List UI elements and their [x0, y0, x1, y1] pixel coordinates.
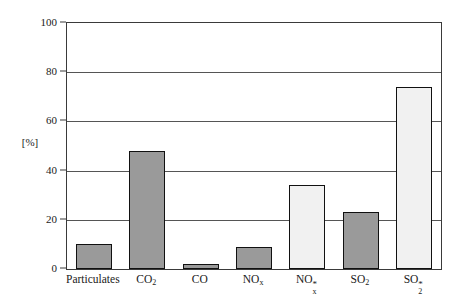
bar-slot	[281, 23, 334, 269]
y-axis-tick-labels: 020406080100	[28, 0, 62, 301]
bar-slot	[120, 23, 173, 269]
x-axis-tick-label: CO	[173, 272, 226, 290]
bar-slot	[227, 23, 280, 269]
plot-area	[66, 22, 442, 270]
y-axis-tick-mark	[60, 169, 66, 170]
y-axis-tick-label: 60	[28, 115, 62, 126]
x-axis-tick-label: SO2	[333, 272, 386, 290]
y-axis-tick-label: 80	[28, 66, 62, 77]
bar[interactable]	[129, 151, 165, 269]
bar[interactable]	[343, 212, 379, 269]
bar-slot	[334, 23, 387, 269]
label-subscript: 2	[365, 278, 369, 287]
plot-inner	[67, 23, 441, 269]
bar-slot	[67, 23, 120, 269]
bar[interactable]	[236, 247, 272, 269]
bar-slot	[388, 23, 441, 269]
y-axis-tick-label: 100	[28, 17, 62, 28]
x-axis-tick-labels: ParticulatesCO2CONOxNOx* SO2SO2*	[66, 272, 440, 290]
y-axis-tick-label: 20	[28, 213, 62, 224]
bar[interactable]	[289, 185, 325, 269]
bar[interactable]	[396, 87, 432, 269]
bar-slot	[174, 23, 227, 269]
bar[interactable]	[183, 264, 219, 269]
x-axis-tick-label: NOx	[226, 272, 279, 290]
y-axis-tick-label: 0	[28, 263, 62, 274]
y-axis-tick-mark	[60, 71, 66, 72]
x-axis-tick-label: Particulates	[66, 272, 120, 290]
label-subscript: x	[259, 278, 263, 287]
x-axis-tick-label: SO2*	[387, 272, 440, 290]
y-axis-tick-mark	[60, 218, 66, 219]
bar[interactable]	[76, 244, 112, 269]
bars-layer	[67, 23, 441, 269]
x-axis-tick-label: NOx*	[280, 272, 333, 290]
y-axis-tick-mark	[60, 22, 66, 23]
bar-chart: [%] 020406080100 ParticulatesCO2CONOxNOx…	[0, 0, 465, 301]
y-axis-tick-mark	[60, 120, 66, 121]
y-axis-tick-mark	[60, 268, 66, 269]
y-axis-tick-label: 40	[28, 164, 62, 175]
x-axis-tick-label: CO2	[120, 272, 173, 290]
label-subscript: 2	[152, 278, 156, 287]
